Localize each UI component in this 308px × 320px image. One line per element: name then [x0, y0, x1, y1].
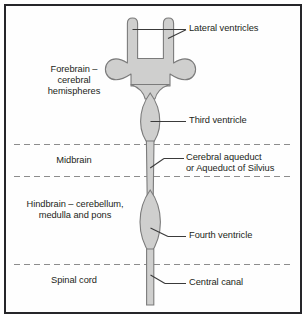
callout-label-lateral-ventricles: Lateral ventricles [189, 23, 305, 34]
region-label-spinal-cord: Spinal cord [18, 275, 130, 286]
callout-label-central-canal: Central canal [189, 277, 305, 288]
third-ventricle-shape [141, 93, 160, 147]
region-label-hindbrain: Hindbrain – cerebellum, medulla and pons [13, 199, 137, 221]
region-label-forebrain: Forebrain – cerebral hemispheres [18, 64, 130, 98]
callout-label-cerebral-aqueduct: Cerebral aqueduct or Aqueduct of Silvius [186, 152, 308, 174]
region-label-midbrain: Midbrain [18, 155, 130, 166]
central-canal-shape [147, 249, 154, 305]
fourth-ventricle-shape [140, 190, 160, 255]
callout-label-third-ventricle: Third ventricle [189, 115, 305, 126]
ventricular-system-figure: Forebrain – cerebral hemispheres Midbrai… [0, 0, 308, 320]
callout-label-fourth-ventricle: Fourth ventricle [189, 230, 305, 241]
